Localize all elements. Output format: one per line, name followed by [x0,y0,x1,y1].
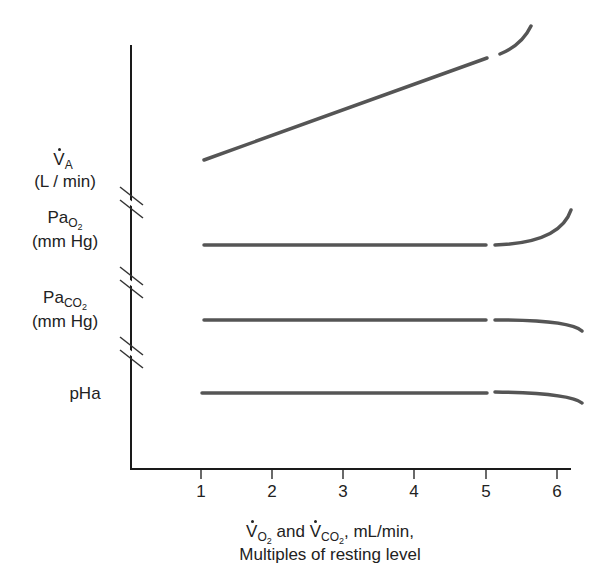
x-tick-label: 4 [404,482,424,502]
x-axis [130,469,571,479]
x-tick-label: 6 [547,482,567,502]
curve-va [204,26,531,160]
x-axis-title: VO2 and VCO2, mL/min, Multiples of resti… [180,522,480,566]
label-pha: pHa [50,384,120,404]
x-tick-label: 3 [333,482,353,502]
x-tick-label: 5 [476,482,496,502]
curve-pao2 [204,210,571,245]
x-tick-label: 1 [191,482,211,502]
curve-pha [202,392,582,403]
label-pao2: PaO2 (mm Hg) [15,208,115,252]
x-tick-label: 2 [262,482,282,502]
label-paco2: PaCO2 (mm Hg) [15,288,115,332]
curve-paco2 [204,320,582,331]
label-va: VA (L / min) [20,150,110,192]
